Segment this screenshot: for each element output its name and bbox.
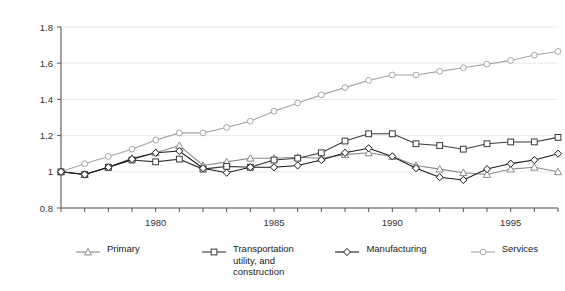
square-marker [153, 159, 159, 165]
diamond-marker [344, 248, 351, 255]
circle-marker [342, 85, 348, 91]
circle-marker [82, 161, 88, 167]
triangle-marker [75, 244, 101, 256]
square-marker [437, 143, 443, 149]
circle-marker [555, 49, 561, 55]
y-axis-tick-label: 1.8 [40, 22, 53, 33]
series-line [61, 134, 558, 175]
square-marker [484, 141, 490, 147]
x-axis-tick-label: 1990 [382, 217, 403, 228]
circle-marker [318, 92, 324, 98]
circle-marker [366, 77, 372, 83]
legend-item-label: Primary [107, 243, 140, 255]
square-marker [318, 150, 324, 156]
diamond-marker [460, 176, 467, 183]
legend-item-label: Services [502, 243, 538, 255]
circle-marker [460, 65, 466, 71]
square-marker [176, 156, 182, 162]
y-axis-tick-label: 0.8 [40, 203, 53, 214]
circle-marker [129, 146, 135, 152]
square-marker [211, 249, 217, 255]
diamond-marker [271, 164, 278, 171]
x-axis-tick-label: 1995 [500, 217, 521, 228]
legend-item[interactable]: Manufacturing [334, 243, 445, 256]
square-marker [342, 138, 348, 144]
circle-marker [247, 118, 253, 124]
diamond-marker [531, 156, 538, 163]
circle-marker [480, 249, 486, 255]
square-marker [271, 157, 277, 163]
diamond-marker [334, 244, 360, 256]
circle-marker [437, 68, 443, 74]
legend-item[interactable]: Services [470, 243, 555, 256]
square-marker [389, 131, 395, 137]
y-axis-tick-label: 1.2 [40, 130, 53, 141]
chart-legend: PrimaryTransportation utility, and const… [75, 243, 555, 289]
diamond-marker [365, 145, 372, 152]
series-line [61, 51, 558, 171]
circle-marker [389, 72, 395, 78]
circle-marker [484, 61, 490, 67]
circle-marker [271, 108, 277, 114]
triangle-marker [531, 164, 538, 171]
circle-marker [153, 137, 159, 143]
y-axis-tick-label: 1.6 [40, 58, 53, 69]
legend-item-label: Transportation utility, and construction [233, 243, 294, 278]
legend-item[interactable]: Transportation utility, and construction [201, 243, 310, 278]
line-chart-figure: 0.811.21.41.61.81980198519901995 Primary… [0, 0, 565, 291]
circle-marker [200, 130, 206, 136]
circle-marker [508, 58, 514, 64]
circle-marker [105, 154, 111, 160]
square-marker [366, 131, 372, 137]
circle-marker [224, 125, 230, 131]
diamond-marker [294, 162, 301, 169]
circle-marker [531, 52, 537, 58]
circle-marker [413, 72, 419, 78]
diamond-marker [555, 150, 562, 157]
square-marker [460, 146, 466, 152]
square-marker [508, 139, 514, 145]
circle-marker [176, 130, 182, 136]
square-marker [295, 155, 301, 161]
legend-item[interactable]: Primary [75, 243, 177, 256]
y-axis-tick-label: 1 [48, 166, 53, 177]
diamond-marker [223, 169, 230, 176]
square-marker [531, 139, 537, 145]
y-axis-tick-label: 1.4 [40, 94, 53, 105]
square-marker [201, 244, 227, 256]
legend-item-label: Manufacturing [366, 243, 426, 255]
square-marker [555, 135, 561, 141]
square-marker [413, 141, 419, 147]
circle-marker [295, 100, 301, 106]
series-line [61, 148, 558, 180]
diamond-marker [436, 174, 443, 181]
diamond-marker [507, 160, 514, 167]
x-axis-tick-label: 1980 [145, 217, 166, 228]
x-axis-tick-label: 1985 [263, 217, 284, 228]
circle-marker [470, 244, 496, 256]
